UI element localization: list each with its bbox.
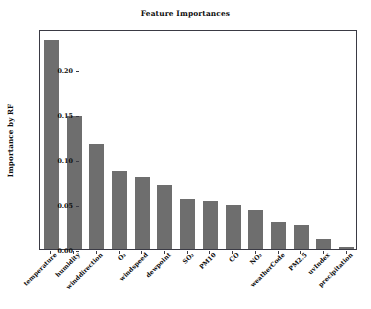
- bar: [294, 225, 309, 249]
- y-axis-tick-label: 0.05: [57, 202, 73, 210]
- x-axis-tick-label: SO₂: [181, 251, 195, 265]
- y-axis-tick-mark: [76, 206, 79, 207]
- bar: [316, 239, 331, 249]
- bars-container: [40, 31, 356, 249]
- bar: [226, 205, 241, 249]
- x-axis-tick-label: PM10: [198, 251, 217, 270]
- y-axis-tick-label: 0.20: [57, 67, 73, 75]
- bar: [135, 177, 150, 249]
- feature-importances-figure: Feature Importances Importance by RF 0.0…: [0, 0, 371, 309]
- bar: [67, 116, 82, 249]
- bar: [112, 171, 127, 249]
- y-axis-tick-label: 0.10: [57, 157, 73, 165]
- bar: [339, 247, 354, 249]
- x-axis-tick-label: PM2.5: [287, 251, 308, 272]
- bar: [89, 144, 104, 249]
- x-axis-tick-labels: temperaturehumiditywinddirectionO₃windsp…: [39, 251, 357, 309]
- y-axis-label-text: Importance by RF: [7, 103, 16, 177]
- x-axis-tick-label: O₃: [116, 251, 127, 262]
- x-axis-tick-label: NO₂: [248, 251, 263, 266]
- bar: [157, 185, 172, 249]
- x-axis-tick-label: CO: [228, 251, 240, 263]
- bar: [248, 210, 263, 250]
- x-axis-tick-label: temperature: [22, 251, 58, 287]
- bar: [180, 199, 195, 249]
- bar: [203, 201, 218, 249]
- chart-title: Feature Importances: [0, 9, 371, 18]
- y-axis-tick-mark: [76, 161, 79, 162]
- y-axis-tick-mark: [76, 71, 79, 72]
- plot-area: 0.000.050.100.150.20: [39, 30, 357, 250]
- bar: [271, 222, 286, 249]
- y-axis-tick-mark: [76, 116, 79, 117]
- y-axis-label: Importance by RF: [4, 30, 18, 250]
- y-axis-tick-label: 0.15: [57, 112, 73, 120]
